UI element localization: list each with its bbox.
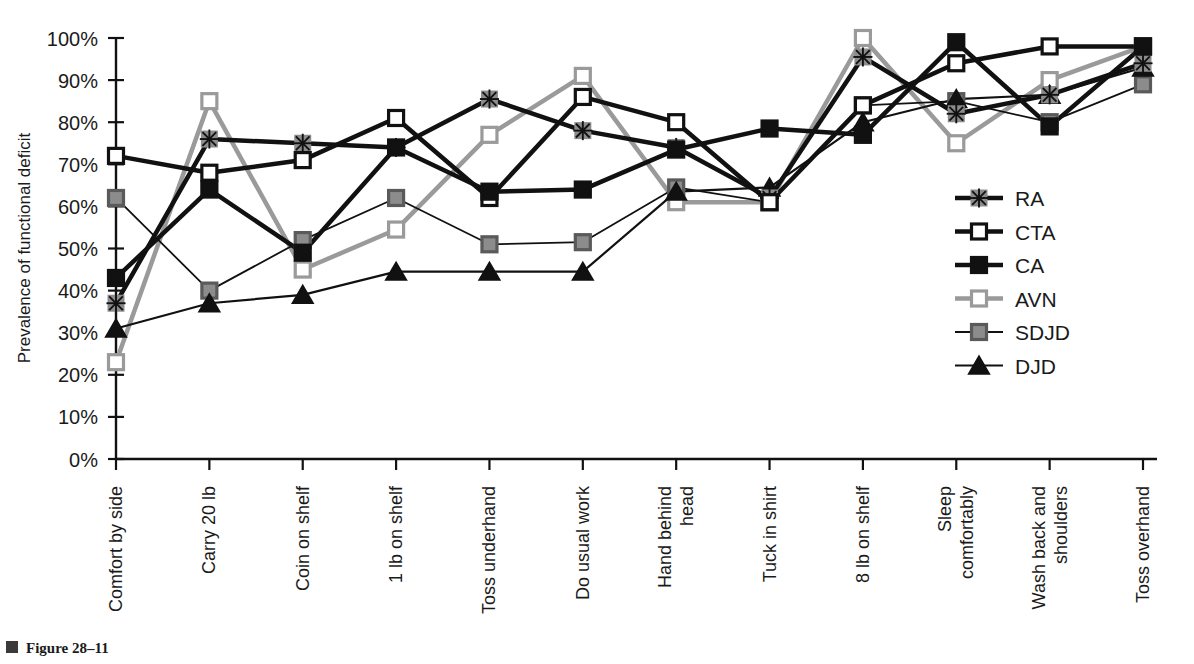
data-point-marker-square <box>389 140 404 155</box>
data-point-marker-square <box>295 153 310 168</box>
x-tick-label: Do usual work <box>573 485 593 600</box>
data-point-marker-square <box>972 224 987 239</box>
legend-item-ca[interactable]: CA <box>955 254 1044 277</box>
data-point-marker-square <box>949 136 964 151</box>
data-point-marker-square <box>762 121 777 136</box>
data-point-marker-square <box>855 98 870 113</box>
figure-caption: Figure 28–11 <box>6 640 109 656</box>
data-point-marker-square <box>575 89 590 104</box>
data-point-marker-square <box>109 355 124 370</box>
legend-item-sdjd[interactable]: SDJD <box>955 321 1070 344</box>
data-point-marker-square <box>949 56 964 71</box>
data-point-marker-square <box>972 291 987 306</box>
y-tick-label: 60% <box>58 196 98 218</box>
data-point-marker-square <box>669 115 684 130</box>
legend: RACTACAAVNSDJDDJD <box>955 187 1070 378</box>
data-point-marker-square <box>762 195 777 210</box>
data-point-marker-square <box>202 165 217 180</box>
x-tick-label: shoulders <box>1051 486 1071 564</box>
legend-label: CA <box>1015 254 1044 277</box>
data-point-marker-square <box>1136 39 1151 54</box>
data-point-marker-triangle <box>106 319 126 336</box>
data-point-marker-square <box>389 222 404 237</box>
data-point-marker-square <box>575 182 590 197</box>
data-point-marker-square <box>949 35 964 50</box>
data-point-marker-square <box>1136 77 1151 92</box>
data-point-marker-square <box>109 148 124 163</box>
y-axis-ticks: 0%10%20%30%40%50%60%70%80%90%100% <box>47 28 124 471</box>
y-tick-label: 50% <box>58 238 98 260</box>
data-point-marker-square <box>972 325 987 340</box>
legend-label: CTA <box>1015 221 1055 244</box>
data-point-marker-square <box>482 127 497 142</box>
caption-bullet-icon <box>6 641 18 653</box>
data-point-marker-square <box>855 127 870 142</box>
x-tick-label: head <box>677 486 697 526</box>
data-point-marker-square <box>1042 39 1057 54</box>
x-tick-label: comfortably <box>957 486 977 579</box>
x-tick-label: Hand behind <box>655 486 675 588</box>
y-tick-label: 40% <box>58 280 98 302</box>
series-markers-ca <box>109 35 1151 286</box>
data-point-marker-square <box>1042 119 1057 134</box>
y-axis-title: Prevalence of functional deficit <box>15 132 34 363</box>
data-point-marker-square <box>202 94 217 109</box>
legend-label: AVN <box>1015 288 1057 311</box>
data-point-marker-square <box>482 237 497 252</box>
data-point-marker-square <box>295 245 310 260</box>
data-point-marker-square <box>389 110 404 125</box>
y-tick-label: 70% <box>58 154 98 176</box>
x-tick-label: Comfort by side <box>106 486 126 612</box>
legend-item-cta[interactable]: CTA <box>955 221 1055 244</box>
y-tick-label: 30% <box>58 322 98 344</box>
x-axis-ticks: Comfort by sideCarry 20 lbCoin on shelf1… <box>106 459 1153 614</box>
y-tick-label: 10% <box>58 406 98 428</box>
x-tick-label: Carry 20 lb <box>199 486 219 574</box>
y-tick-label: 80% <box>58 112 98 134</box>
legend-label: SDJD <box>1015 321 1070 344</box>
x-tick-label: Wash back and <box>1029 486 1049 609</box>
x-tick-label: 8 lb on shelf <box>853 485 873 583</box>
legend-item-djd[interactable]: DJD <box>955 355 1056 378</box>
data-point-marker-square <box>482 184 497 199</box>
data-point-marker-square <box>855 31 870 46</box>
legend-label: RA <box>1015 187 1044 210</box>
data-point-marker-square <box>109 270 124 285</box>
figure-caption-label: Figure 28–11 <box>26 640 109 656</box>
data-point-marker-square <box>295 262 310 277</box>
x-tick-label: Sleep <box>935 486 955 532</box>
legend-item-ra[interactable]: RA <box>955 187 1044 210</box>
x-tick-label: Toss overhand <box>1133 486 1153 603</box>
line-chart: Prevalence of functional deficit0%10%20%… <box>0 0 1194 664</box>
data-point-marker-square <box>972 258 987 273</box>
y-tick-label: 0% <box>69 449 98 471</box>
data-point-marker-square <box>669 142 684 157</box>
figure-container: Prevalence of functional deficit0%10%20%… <box>0 0 1194 664</box>
legend-item-avn[interactable]: AVN <box>955 288 1057 311</box>
y-tick-label: 90% <box>58 70 98 92</box>
series-line-ca <box>116 42 1143 278</box>
series-markers-cta <box>109 39 1151 210</box>
axes <box>116 37 1157 459</box>
series-markers-ra <box>106 47 1152 312</box>
x-tick-label: Tuck in shirt <box>760 486 780 582</box>
data-point-marker-square <box>109 190 124 205</box>
x-tick-label: Coin on shelf <box>293 485 313 591</box>
legend-label: DJD <box>1015 355 1056 378</box>
y-tick-label: 100% <box>47 28 98 50</box>
data-point-marker-square <box>575 235 590 250</box>
y-tick-label: 20% <box>58 364 98 386</box>
data-point-marker-square <box>575 68 590 83</box>
x-tick-label: 1 lb on shelf <box>386 485 406 583</box>
data-point-marker-square <box>389 190 404 205</box>
data-point-marker-square <box>202 182 217 197</box>
x-tick-label: Toss underhand <box>479 486 499 614</box>
series-line-sdjd <box>116 84 1143 290</box>
